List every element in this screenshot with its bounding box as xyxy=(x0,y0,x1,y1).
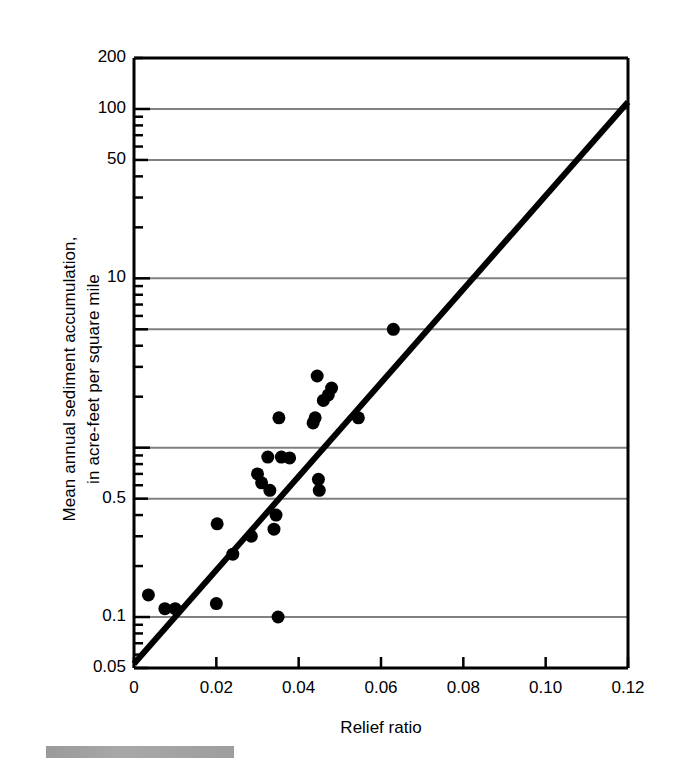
data-point xyxy=(142,588,155,601)
data-point xyxy=(313,484,326,497)
data-point xyxy=(263,484,276,497)
data-point xyxy=(210,597,223,610)
y-tick-label: 50 xyxy=(56,149,126,169)
data-point xyxy=(270,509,283,522)
data-point xyxy=(226,548,239,561)
chart-figure: Mean annual sediment accumulation, in ac… xyxy=(0,0,678,774)
x-tick-label: 0.04 xyxy=(269,678,329,698)
x-tick-label: 0.06 xyxy=(351,678,411,698)
x-axis-label: Relief ratio xyxy=(134,718,628,738)
x-tick-label: 0.02 xyxy=(186,678,246,698)
x-tick-label: 0.12 xyxy=(598,678,658,698)
data-point xyxy=(245,530,258,543)
footer-gray-bar xyxy=(46,746,234,758)
data-point xyxy=(387,323,400,336)
data-point xyxy=(352,411,365,424)
data-point xyxy=(283,451,296,464)
y-axis-label: Mean annual sediment accumulation, in ac… xyxy=(58,169,106,589)
y-tick-label: 0.5 xyxy=(56,488,126,508)
data-point xyxy=(261,451,274,464)
data-point xyxy=(272,611,285,624)
x-tick-label: 0.08 xyxy=(433,678,493,698)
y-tick-label: 100 xyxy=(56,98,126,118)
data-point xyxy=(267,523,280,536)
y-tick-label: 0.05 xyxy=(56,657,126,677)
x-tick-label: 0 xyxy=(104,678,164,698)
data-point xyxy=(211,517,224,530)
data-point xyxy=(169,602,182,615)
data-point xyxy=(325,382,338,395)
data-point xyxy=(309,411,322,424)
x-tick-label: 0.10 xyxy=(516,678,576,698)
y-tick-label: 0.1 xyxy=(56,606,126,626)
y-tick-label: 10 xyxy=(56,267,126,287)
y-tick-label: 200 xyxy=(56,47,126,67)
data-point xyxy=(311,369,324,382)
data-point xyxy=(272,411,285,424)
